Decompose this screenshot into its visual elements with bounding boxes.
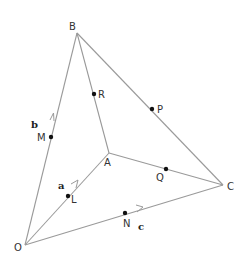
point-L (66, 194, 70, 198)
label-N: N (123, 218, 130, 229)
point-M (49, 135, 53, 139)
point-Q (164, 167, 168, 171)
point-P (150, 107, 154, 111)
label-vector-c: c (138, 221, 144, 232)
label-A: A (104, 157, 111, 168)
edge-OC (25, 185, 223, 245)
point-N (123, 211, 127, 215)
label-L: L (71, 194, 77, 205)
label-P: P (157, 104, 163, 115)
label-O: O (14, 242, 22, 253)
tetrahedron-diagram: B O A C R P M L Q N b a c (0, 0, 246, 257)
label-C: C (227, 181, 234, 192)
label-B: B (69, 21, 76, 32)
label-M: M (37, 132, 46, 143)
label-vector-b: b (31, 119, 38, 130)
label-vector-a: a (58, 180, 65, 191)
edge-OA (25, 153, 109, 245)
arrow-b-icon (50, 113, 54, 121)
label-R: R (98, 89, 105, 100)
point-R (92, 92, 96, 96)
arrow-a-icon (71, 180, 78, 188)
label-Q: Q (156, 172, 164, 183)
